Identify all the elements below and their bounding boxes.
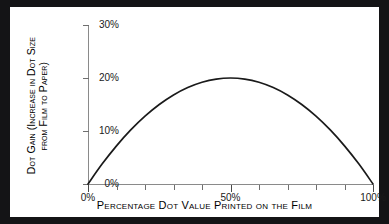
- dot-gain-curve-path: [88, 78, 373, 184]
- x-tick: [88, 185, 89, 192]
- x-tick: [145, 185, 146, 190]
- y-axis-title: Dot Gain (Increase in Dot Size from Film…: [14, 13, 60, 199]
- x-tick: [174, 185, 175, 190]
- x-tick: [373, 185, 374, 192]
- x-tick: [288, 185, 289, 190]
- plot-area: 0%10%20%30% 0%50%100%: [88, 25, 373, 185]
- y-axis-title-line-1: Dot Gain (Increase in Dot Size: [26, 37, 37, 174]
- x-tick: [202, 185, 203, 190]
- x-tick: [117, 185, 118, 190]
- dot-gain-curve: [88, 25, 373, 185]
- x-tick: [231, 185, 232, 192]
- y-axis-title-line-2: from Film to Paper): [38, 62, 49, 151]
- x-axis-title: Percentage Dot Value Printed on the Film: [20, 199, 389, 211]
- x-tick: [316, 185, 317, 190]
- chart-frame: Dot Gain (Increase in Dot Size from Film…: [0, 0, 389, 224]
- x-tick: [259, 185, 260, 190]
- x-tick: [345, 185, 346, 190]
- chart-plate: Dot Gain (Increase in Dot Size from Film…: [10, 7, 379, 217]
